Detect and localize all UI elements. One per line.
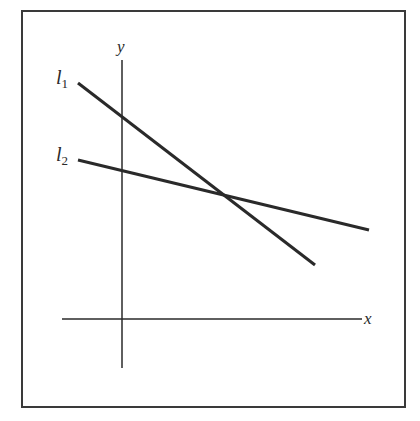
x-axis-label: x xyxy=(363,309,372,328)
figure-frame xyxy=(22,11,405,407)
line-l2-label: l2 xyxy=(56,143,68,168)
line-intersection-diagram: x y l1 l2 xyxy=(0,0,420,421)
line-l1-label: l1 xyxy=(56,66,68,91)
line-l1 xyxy=(78,83,315,265)
y-axis-label: y xyxy=(115,37,125,56)
